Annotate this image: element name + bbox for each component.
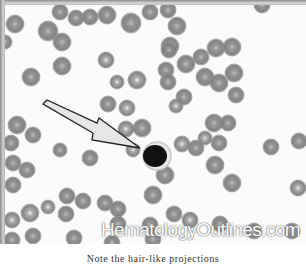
watermark: HematologyOutlines.com xyxy=(101,219,300,241)
red-blood-cell xyxy=(174,136,190,152)
red-blood-cell xyxy=(3,135,19,151)
figure-caption: Note the hair-like projections xyxy=(0,253,306,264)
frame-border-left xyxy=(0,0,5,244)
red-blood-cell xyxy=(225,64,243,82)
red-blood-cell xyxy=(228,87,244,103)
red-blood-cell xyxy=(188,140,204,156)
red-blood-cell xyxy=(119,100,135,116)
red-blood-cell xyxy=(223,174,241,192)
red-blood-cell xyxy=(22,68,40,86)
red-blood-cell xyxy=(207,39,225,57)
red-blood-cell xyxy=(211,135,227,151)
red-blood-cell xyxy=(5,177,21,193)
red-blood-cell xyxy=(59,188,75,204)
hairy-cell xyxy=(143,142,171,170)
red-blood-cell xyxy=(58,206,74,222)
red-blood-cell xyxy=(53,57,71,75)
red-blood-cell xyxy=(177,55,195,73)
blood-smear-svg xyxy=(0,0,306,244)
red-blood-cell xyxy=(68,10,84,26)
red-blood-cell xyxy=(19,162,35,178)
red-blood-cell xyxy=(223,38,241,56)
red-blood-cell xyxy=(210,74,228,92)
red-blood-cell xyxy=(25,127,41,143)
red-blood-cell xyxy=(4,232,20,244)
red-blood-cell xyxy=(8,116,26,134)
red-blood-cell xyxy=(291,133,306,149)
hairy-cell-nucleus xyxy=(143,145,167,167)
red-blood-cell xyxy=(98,52,114,68)
red-blood-cell xyxy=(75,193,91,209)
red-blood-cell xyxy=(133,119,151,137)
red-blood-cell xyxy=(110,75,124,89)
frame-border-top xyxy=(0,0,306,5)
red-blood-cell xyxy=(82,150,98,166)
red-blood-cell xyxy=(6,15,24,33)
red-blood-cell xyxy=(66,230,82,244)
red-blood-cell xyxy=(220,115,236,131)
red-blood-cell xyxy=(53,33,71,51)
red-blood-cell xyxy=(142,4,158,20)
red-blood-cell xyxy=(176,89,192,105)
red-blood-cell xyxy=(21,204,39,222)
red-blood-cell xyxy=(110,201,126,217)
red-blood-cell xyxy=(53,143,67,157)
red-blood-cell xyxy=(160,74,176,90)
red-blood-cell xyxy=(144,186,162,204)
red-blood-cell xyxy=(290,180,306,196)
red-blood-cell xyxy=(52,4,68,20)
red-blood-cell xyxy=(82,9,98,25)
red-blood-cell xyxy=(41,200,55,214)
red-blood-cell xyxy=(161,42,177,58)
red-blood-cell xyxy=(263,139,279,155)
red-blood-cell xyxy=(206,156,224,174)
red-blood-cell xyxy=(4,212,20,228)
red-blood-cell xyxy=(168,17,186,35)
red-blood-cell xyxy=(25,228,41,244)
red-blood-cell xyxy=(98,6,116,24)
red-blood-cell xyxy=(121,13,141,33)
red-blood-cell xyxy=(5,155,21,171)
red-blood-cell xyxy=(193,49,209,65)
red-blood-cell xyxy=(100,96,116,112)
red-blood-cell xyxy=(128,71,146,89)
micrograph-image: HematologyOutlines.com xyxy=(0,0,306,244)
